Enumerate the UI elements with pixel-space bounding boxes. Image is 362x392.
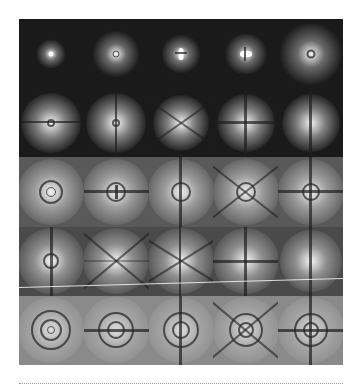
cell-r4-c4 (213, 227, 278, 296)
cell-r5-c4 (213, 296, 278, 365)
cell-r3-c4 (213, 157, 278, 226)
cell-r3-c1 (19, 157, 84, 226)
cell-r5-c2 (84, 296, 149, 365)
cell-r2-c2 (84, 88, 149, 157)
cell-r4-c3 (149, 227, 214, 296)
cell-r2-c1 (19, 88, 84, 157)
cell-r1-c4 (213, 19, 278, 88)
cell-r5-c3 (149, 296, 214, 365)
cell-r3-c2 (84, 157, 149, 226)
cell-r3-c3 (149, 157, 214, 226)
cell-r1-c5 (278, 19, 343, 88)
cell-r5-c5 (278, 296, 343, 365)
cell-r1-c2 (84, 19, 149, 88)
cell-r2-c4 (213, 88, 278, 157)
cell-r2-c3 (149, 88, 214, 157)
cell-r1-c1 (19, 19, 84, 88)
pattern-grid-figure (19, 19, 343, 365)
cell-r4-c5 (278, 227, 343, 296)
cell-r1-c3 (149, 19, 214, 88)
cell-r5-c1 (19, 296, 84, 365)
dotted-separator (19, 383, 343, 384)
cell-r3-c5 (278, 157, 343, 226)
cell-r2-c5 (278, 88, 343, 157)
